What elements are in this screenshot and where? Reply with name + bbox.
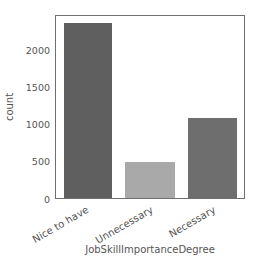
ytick-1000: 1000 (26, 119, 50, 130)
xtick-unnecessary: Unnecessary (93, 204, 154, 246)
bar-necessary (188, 118, 237, 198)
y-axis-label: count (4, 93, 15, 121)
xtick-necessary: Necessary (167, 204, 217, 239)
xtick-nice-to-have: Nice to have (31, 204, 91, 245)
ytick-1500: 1500 (26, 82, 50, 93)
bar-unnecessary (125, 162, 175, 198)
ytick-500: 500 (32, 156, 50, 167)
x-axis-label: JobSkillImportanceDegree (85, 244, 215, 255)
ytick-0: 0 (44, 194, 50, 205)
chart-frame (55, 15, 245, 199)
ytick-2000: 2000 (26, 45, 50, 56)
bar-nice-to-have (64, 23, 112, 198)
